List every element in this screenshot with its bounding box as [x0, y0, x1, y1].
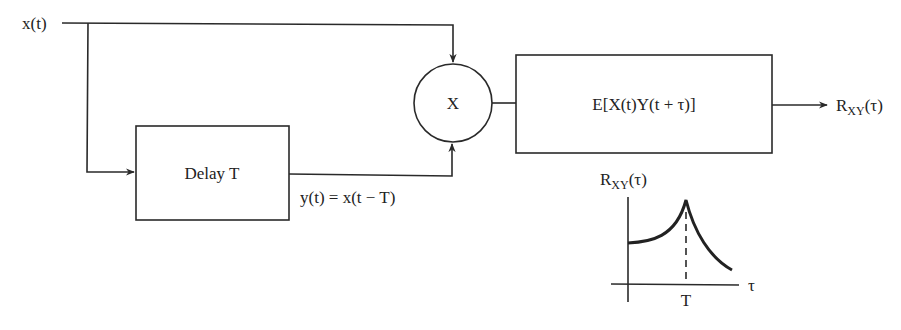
output-label: RXY(τ)	[836, 96, 883, 118]
inset-plot-title: RXY(τ)	[600, 170, 647, 192]
inset-correlation-curve	[628, 200, 732, 270]
inset-plot: RXY(τ) T τ	[600, 170, 755, 310]
input-label: x(t)	[22, 14, 47, 33]
input-to-delay-arrow	[87, 23, 134, 172]
inset-x-axis	[611, 284, 739, 285]
input-to-multiplier-arrow	[62, 23, 453, 62]
delay-to-multiplier-arrow	[289, 144, 452, 176]
block-diagram: x(t) Delay T y(t) = x(t − T) X E[X(t)Y(t…	[0, 0, 901, 330]
multiplier-symbol: X	[447, 94, 459, 113]
inset-x-tick-T: T	[681, 291, 692, 310]
inset-x-axis-label: τ	[748, 276, 755, 295]
delay-block-label: Delay T	[185, 164, 241, 183]
delayed-signal-label: y(t) = x(t − T)	[300, 188, 395, 207]
expectation-block-label: E[X(t)Y(t + τ)]	[592, 95, 695, 114]
